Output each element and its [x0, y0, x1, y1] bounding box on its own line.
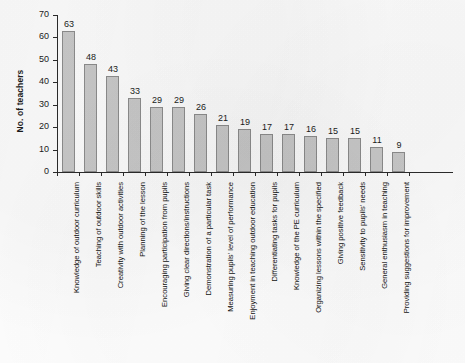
bar[interactable]	[216, 125, 229, 172]
bar[interactable]	[62, 31, 75, 172]
x-axis-category-label: Giving positive feedback	[336, 182, 345, 264]
x-axis-tick-mark	[233, 172, 234, 176]
x-axis-tick-mark	[101, 172, 102, 176]
x-axis-tick-mark	[255, 172, 256, 176]
x-axis-tick-mark	[189, 172, 190, 176]
bar-value-label: 48	[76, 52, 106, 62]
x-axis-category-label: Giving clear directions/instructions	[182, 182, 191, 297]
y-axis-line	[57, 15, 58, 173]
bar[interactable]	[282, 134, 295, 172]
x-axis-label-group: Knowledge of outdoor curriculumTeaching …	[58, 182, 454, 357]
x-axis-category-label: Measuring pupils' level of performance	[226, 182, 235, 312]
bar[interactable]	[304, 136, 317, 172]
bar[interactable]	[260, 134, 273, 172]
x-axis-tick-mark	[79, 172, 80, 176]
y-axis-tick-label: 10	[39, 144, 49, 155]
x-axis-tick-mark	[409, 172, 410, 176]
x-axis-tick-mark	[167, 172, 168, 176]
x-axis-category-label: Organizing lessons within the specified	[314, 182, 323, 313]
x-axis-category-label: Knowledge of outdoor curriculum	[72, 182, 81, 293]
bar[interactable]	[128, 98, 141, 172]
x-axis-category-label: Differentiating tasks for pupils	[270, 182, 279, 281]
x-axis-tick-mark	[211, 172, 212, 176]
bar[interactable]	[326, 138, 339, 172]
x-axis-category-label: Demonstration of a particular task	[204, 182, 213, 296]
y-axis-tick-label: 40	[39, 76, 49, 87]
bar[interactable]	[238, 129, 251, 172]
y-axis-tick-label: 20	[39, 121, 49, 132]
x-axis-category-label: Creativity with outdoor activities	[116, 182, 125, 288]
bar-value-label: 26	[186, 102, 216, 112]
bar[interactable]	[392, 152, 405, 172]
x-axis-tick-mark	[145, 172, 146, 176]
bar-value-label: 63	[54, 19, 84, 29]
x-axis-tick-mark	[123, 172, 124, 176]
x-axis-tick-mark	[387, 172, 388, 176]
y-axis-tick-label: 0	[44, 166, 49, 177]
x-axis-category-label: Providing suggestions for improvement	[402, 182, 411, 313]
x-axis-tick-mark	[321, 172, 322, 176]
bar[interactable]	[84, 64, 97, 172]
bar[interactable]	[106, 76, 119, 172]
x-axis-category-label: Teaching of outdoor skills	[94, 182, 103, 267]
y-axis-tick-label: 50	[39, 54, 49, 65]
bar[interactable]	[194, 114, 207, 172]
y-axis-tick-label: 70	[39, 9, 49, 20]
x-axis-category-label: Planning of the lesson	[138, 182, 147, 257]
x-axis-tick-mark	[277, 172, 278, 176]
x-axis-category-label: Knowledge of the PE curriculum	[292, 182, 301, 290]
x-axis-category-label: Enjoyment in teaching outdoor education	[248, 182, 257, 320]
bar-value-label: 9	[384, 140, 414, 150]
x-axis-category-label: Sensitivity to pupils' needs	[358, 182, 367, 271]
x-axis-tick-mark	[299, 172, 300, 176]
x-axis-category-label: Encouraging participation from pupils	[160, 182, 169, 307]
bar[interactable]	[172, 107, 185, 172]
x-axis-category-label: General enthusiasm in teaching	[380, 182, 389, 289]
x-axis-tick-mark	[365, 172, 366, 176]
bar[interactable]	[348, 138, 361, 172]
bar-chart-figure: No. of teachers 706050403020100 63484333…	[0, 0, 465, 363]
x-axis-tick-mark	[343, 172, 344, 176]
bar[interactable]	[370, 147, 383, 172]
bar-value-label: 43	[98, 64, 128, 74]
y-axis-tick-label: 60	[39, 31, 49, 42]
x-axis-tick-mark	[57, 172, 58, 176]
y-axis-tick-label: 30	[39, 99, 49, 110]
bar[interactable]	[150, 107, 163, 172]
